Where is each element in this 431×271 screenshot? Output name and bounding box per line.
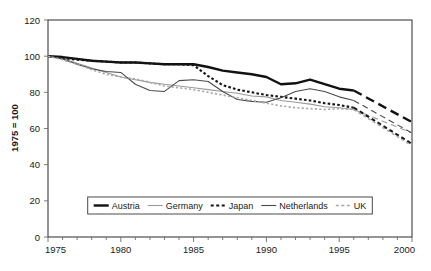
y-tick-label: 80 — [29, 87, 40, 98]
data-series-group — [48, 56, 412, 146]
legend-label-japan[interactable]: Japan — [229, 201, 254, 211]
legend-label-germany[interactable]: Germany — [166, 201, 204, 211]
y-axis-title: 1975 = 100 — [9, 104, 20, 152]
series-line-uk — [48, 56, 354, 109]
series-line-germany — [48, 56, 354, 109]
y-tick-label: 20 — [29, 195, 40, 206]
x-tick-label: 2000 — [394, 244, 415, 255]
chart-legend[interactable]: AustriaGermanyJapanNetherlandsUK — [88, 197, 373, 214]
x-tick-label: 1985 — [183, 244, 204, 255]
y-tick-label: 40 — [29, 159, 40, 170]
line-chart: 020406080100120 197519801985199019952000… — [0, 0, 431, 271]
x-tick-label: 1975 — [45, 244, 66, 255]
x-axis-tick-labels: 197519801985199019952000 — [45, 244, 415, 255]
legend-label-uk[interactable]: UK — [354, 201, 367, 211]
chart-container: 020406080100120 197519801985199019952000… — [0, 0, 431, 271]
legend-label-austria[interactable]: Austria — [112, 201, 140, 211]
series-line-japan — [48, 56, 354, 108]
series-line-austria — [48, 56, 354, 90]
y-tick-label: 100 — [24, 51, 40, 62]
x-tick-label: 1995 — [329, 244, 350, 255]
y-tick-label: 60 — [29, 123, 40, 134]
y-axis-title-text: 1975 = 100 — [9, 104, 20, 152]
series-projection-uk — [354, 110, 412, 146]
legend-label-netherlands[interactable]: Netherlands — [279, 201, 328, 211]
series-projection-japan — [354, 108, 412, 144]
y-tick-label: 0 — [35, 232, 40, 243]
x-tick-label: 1990 — [256, 244, 277, 255]
y-tick-label: 120 — [24, 15, 40, 26]
x-tick-label: 1980 — [110, 244, 131, 255]
series-projection-austria — [354, 91, 412, 123]
y-axis-tick-labels: 020406080100120 — [24, 15, 40, 243]
